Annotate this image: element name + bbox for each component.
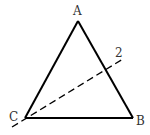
triangle-diagram: A B C 2: [0, 0, 150, 135]
vertex-label-c: C: [9, 110, 18, 124]
vertex-label-a: A: [72, 4, 82, 18]
dashed-line-2: [12, 59, 123, 127]
line-label-2: 2: [115, 46, 123, 60]
vertex-label-b: B: [136, 114, 145, 128]
edge-ab: [78, 21, 133, 118]
